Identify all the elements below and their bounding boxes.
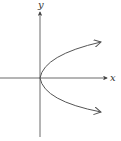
- parabola-lower-branch: [40, 78, 101, 112]
- parabola-graph: x y: [0, 0, 121, 141]
- y-axis-label: y: [37, 0, 44, 10]
- x-axis-label: x: [110, 72, 116, 83]
- parabola-upper-branch: [40, 42, 101, 78]
